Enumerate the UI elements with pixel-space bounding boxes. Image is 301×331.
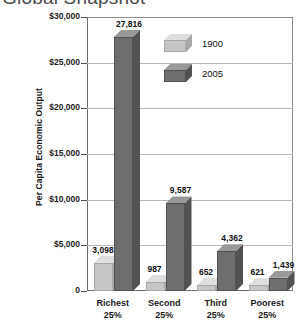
bar-1439 — [269, 271, 295, 291]
x-axis-label-line: 25% — [230, 310, 300, 322]
y-tick-mark — [81, 17, 87, 18]
y-tick: $5,000 — [30, 239, 80, 251]
bar-front-face — [269, 278, 288, 291]
y-tick-mark — [81, 63, 87, 64]
chart-legend: 1900 2005 — [158, 30, 244, 92]
bar-side-face — [133, 30, 140, 291]
legend-item-2005: 2005 — [158, 60, 244, 88]
y-tick-label: 0 — [32, 285, 80, 295]
y-tick-label: $30,000 — [32, 11, 80, 21]
chart-canvas: Global Snapshot 0$5,000$10,000$15,000$20… — [0, 0, 300, 331]
y-axis-title: Per Capita Economic Output — [34, 72, 44, 222]
bar-front-face — [94, 263, 113, 291]
bar-front-face — [166, 203, 185, 291]
y-tick: 0 — [30, 285, 80, 297]
y-tick: $30,000 — [30, 11, 80, 23]
legend-item-1900: 1900 — [158, 30, 244, 58]
y-tick: $25,000 — [30, 57, 80, 69]
y-tick-mark — [81, 200, 87, 201]
bar-front-face — [146, 282, 165, 291]
legend-swatch-front-face — [164, 40, 186, 52]
bar-front-face — [197, 285, 216, 291]
chart-title: Global Snapshot — [2, 0, 146, 9]
y-tick-mark — [81, 291, 87, 292]
legend-swatch-front-face — [164, 70, 186, 82]
bar-front-face — [114, 37, 133, 291]
y-tick-mark — [81, 154, 87, 155]
bar-front-face — [249, 285, 268, 291]
bar-value-label: 27,816 — [108, 19, 150, 29]
bar-27816 — [114, 30, 140, 291]
bar-value-label: 9,587 — [160, 185, 202, 195]
bar-front-face — [217, 251, 236, 291]
legend-swatch-1900 — [164, 34, 192, 52]
y-tick-mark — [81, 108, 87, 109]
legend-label-2005: 2005 — [202, 68, 223, 79]
bar-value-label: 1,439 — [263, 260, 301, 270]
y-tick-label: $5,000 — [32, 239, 80, 249]
x-axis-label: Poorest25% — [230, 298, 300, 321]
bar-value-label: 4,362 — [211, 233, 253, 243]
legend-swatch-2005 — [164, 64, 192, 82]
legend-label-1900: 1900 — [202, 38, 223, 49]
x-axis-label-line: Poorest — [230, 298, 300, 310]
y-tick-label: $25,000 — [32, 57, 80, 67]
